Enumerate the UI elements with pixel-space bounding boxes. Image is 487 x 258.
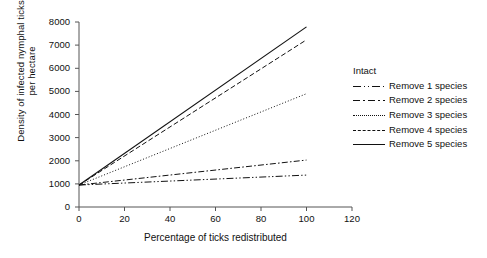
- legend-label: Remove 3 species: [389, 110, 467, 120]
- chart-legend: Intact Remove 1 species Remove 2 species…: [353, 64, 487, 152]
- legend-label: Remove 4 species: [389, 125, 467, 135]
- legend-label: Remove 1 species: [389, 81, 467, 91]
- legend-line-sample-remove-3: [353, 110, 385, 120]
- x-tick-label: 20: [105, 214, 145, 224]
- x-tick-label: 80: [241, 214, 281, 224]
- legend-item-remove-3: Remove 3 species: [353, 108, 487, 123]
- series-lines: [79, 27, 307, 185]
- x-tick-label: 40: [150, 214, 190, 224]
- legend-line-sample-remove-4: [353, 125, 385, 135]
- x-axis-ticks: [79, 207, 352, 211]
- legend-line-sample-remove-2: [353, 95, 385, 105]
- legend-item-remove-1: Remove 1 species: [353, 79, 487, 94]
- legend-item-remove-2: Remove 2 species: [353, 93, 487, 108]
- legend-item-remove-5: Remove 5 species: [353, 137, 487, 152]
- series-line-remove-3-species: [79, 94, 307, 185]
- x-tick-label: 100: [287, 214, 327, 224]
- x-tick-label: 0: [59, 214, 99, 224]
- x-tick-label: 120: [332, 214, 372, 224]
- y-axis-ticks: [75, 22, 79, 207]
- legend-item-remove-4: Remove 4 species: [353, 122, 487, 137]
- x-axis-title: Percentage of ticks redistributed: [79, 232, 352, 243]
- series-line-remove-5-species: [79, 27, 307, 185]
- legend-label: Intact: [353, 66, 376, 76]
- x-tick-label: 60: [196, 214, 236, 224]
- legend-label: Remove 2 species: [389, 95, 467, 105]
- legend-line-sample-remove-1: [353, 81, 385, 91]
- series-line-remove-1-species: [79, 175, 307, 185]
- legend-label: Remove 5 species: [389, 139, 467, 149]
- legend-item-intact: Intact: [353, 64, 487, 79]
- chart-figure: Density of infected nymphal ticks per he…: [0, 0, 487, 258]
- legend-line-sample-remove-5: [353, 139, 385, 149]
- series-line-remove-4-species: [79, 40, 307, 185]
